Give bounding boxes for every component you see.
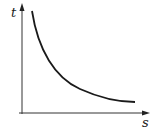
y-axis-arrow-icon <box>20 3 25 11</box>
x-axis <box>19 111 150 116</box>
x-axis-label: s <box>142 115 149 130</box>
inverse-curve-diagram: t s <box>0 0 156 134</box>
y-axis <box>20 3 25 114</box>
decay-curve <box>32 11 135 102</box>
y-axis-label: t <box>11 5 17 20</box>
